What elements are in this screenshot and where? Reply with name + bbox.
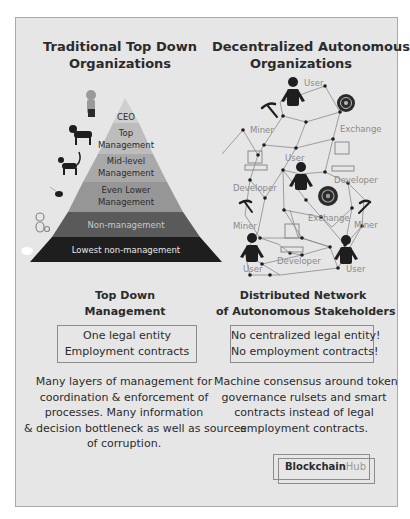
- right-description: Machine consensus around token governanc…: [214, 374, 394, 436]
- user-icon-middle: [289, 162, 313, 190]
- label-miner-left: Miner: [233, 221, 257, 231]
- label-miner-top: Miner: [250, 125, 274, 135]
- right-desc-line-3: contracts instead of legal: [214, 405, 394, 421]
- label-user-bottom-left: User: [243, 264, 263, 274]
- right-desc-line-4: employment contracts.: [214, 421, 394, 437]
- right-box-line-2: No employment contracts!: [231, 344, 373, 360]
- logo-text-hub: Hub: [346, 461, 366, 472]
- logo-text-blockchain: Blockchain: [285, 461, 346, 472]
- label-developer-right: Developer: [334, 175, 378, 185]
- right-subtitle-line-2: of Autonomous Stakeholders: [216, 304, 390, 320]
- blockchainhub-logo: BlockchainHub: [273, 454, 373, 484]
- logo-text: BlockchainHub: [285, 461, 366, 472]
- right-desc-line-2: governance rulsets and smart: [214, 390, 394, 406]
- label-developer-left: Developer: [233, 183, 277, 193]
- network-diagram: User Miner Exchange User Developer Devel…: [0, 0, 410, 519]
- right-legal-box: No centralized legal entity! No employme…: [230, 325, 374, 363]
- right-subtitle: Distributed Network of Autonomous Stakeh…: [216, 288, 390, 320]
- label-exchange-middle: Exchange: [308, 213, 350, 223]
- label-user-top: User: [304, 78, 324, 88]
- miner-icon-right: [359, 201, 370, 213]
- label-miner-right: Miner: [354, 220, 378, 230]
- user-icon-top: [281, 77, 305, 106]
- label-user-bottom-right: User: [346, 264, 366, 274]
- right-desc-line-1: Machine consensus around token: [214, 374, 394, 390]
- right-subtitle-line-1: Distributed Network: [216, 288, 390, 304]
- exchange-icon-top: [337, 94, 355, 112]
- right-box-line-1: No centralized legal entity!: [231, 328, 373, 344]
- miner-icon-top: [262, 104, 277, 118]
- label-user-middle: User: [285, 153, 305, 163]
- label-developer-bottom: Developer: [277, 256, 321, 266]
- developer-icon-right: [332, 142, 354, 171]
- exchange-icon-middle: [318, 186, 338, 206]
- label-exchange-top: Exchange: [340, 124, 382, 134]
